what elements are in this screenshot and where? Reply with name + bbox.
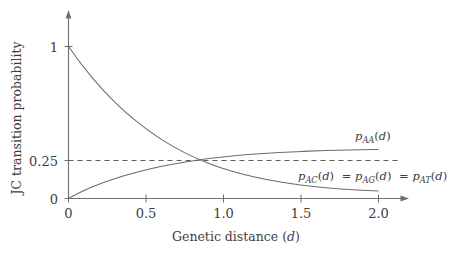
x-tick-label-3: 1.5 — [291, 206, 312, 221]
x-tick-label-4: 2.0 — [368, 206, 389, 221]
p-at-arg: (d) — [431, 169, 447, 183]
svg-text:pAC(d) = pAG(d) = pAT(d): pAC(d) = pAG(d) = pAT(d) — [298, 169, 447, 185]
x-tick-label-2: 1.0 — [213, 206, 234, 221]
annotation-p-ac-ag-at: pAC(d) = pAG(d) = pAT(d) — [298, 169, 447, 185]
x-tick-labels: 0 0.5 1.0 1.5 2.0 — [64, 206, 388, 221]
svg-text:Genetic distance (d): Genetic distance (d) — [172, 229, 300, 244]
y-tick-label-0: 0 — [50, 192, 58, 207]
eq-1: = — [338, 169, 355, 183]
p-ac-arg: (d) — [318, 169, 334, 183]
y-axis-title: JC transition probability — [9, 41, 24, 197]
x-axis-title-close: ) — [295, 229, 300, 244]
y-tick-label-0-25: 0.25 — [29, 154, 58, 169]
p-ag-subscript: AG — [361, 175, 375, 185]
chart-page: 0 0.5 1.0 1.5 2.0 0 0.25 1 Genetic dista… — [0, 0, 469, 255]
annotation-p-aa: pAA(d) — [355, 129, 391, 145]
eq-2: = — [395, 169, 412, 183]
x-axis-arrow-icon — [401, 196, 410, 202]
x-axis-title-main: Genetic distance ( — [172, 229, 287, 244]
x-axis-title: Genetic distance (d) — [172, 229, 300, 244]
y-tick-label-1: 1 — [50, 40, 58, 55]
jc-transition-probability-chart: 0 0.5 1.0 1.5 2.0 0 0.25 1 Genetic dista… — [0, 0, 469, 255]
x-tick-label-1: 0.5 — [136, 206, 157, 221]
x-axis-title-variable: d — [287, 229, 295, 244]
p-aa-subscript: AA — [361, 135, 374, 145]
y-axis-arrow-icon — [66, 10, 72, 19]
svg-text:pAA(d): pAA(d) — [355, 129, 391, 145]
x-tick-label-0: 0 — [64, 206, 72, 221]
y-tick-labels: 0 0.25 1 — [29, 40, 58, 207]
p-ac-subscript: AC — [304, 175, 318, 185]
p-ag-arg: (d) — [375, 169, 391, 183]
p-aa-arg: (d) — [374, 129, 390, 143]
